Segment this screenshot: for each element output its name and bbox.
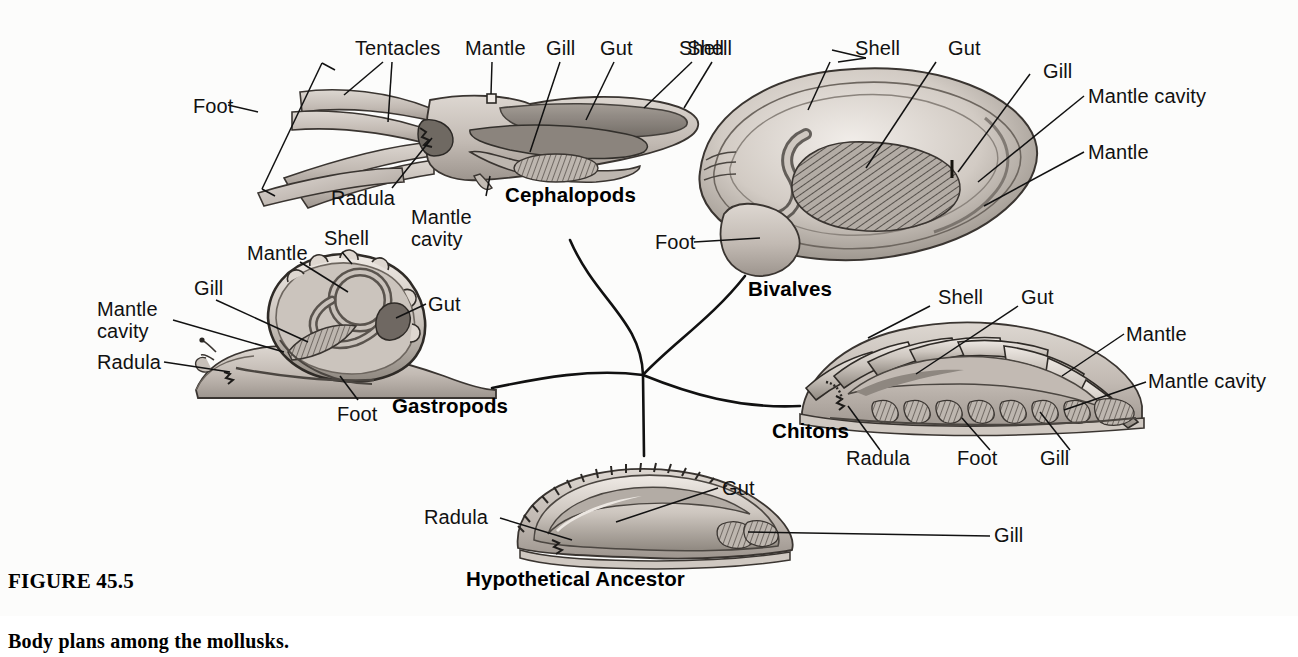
label-gastropod-radula: Radula — [97, 352, 161, 373]
group-label-chitons: Chitons — [772, 419, 849, 443]
label-cephalopod-gut: Gut — [600, 38, 633, 59]
label-cephalopod-foot: Foot — [193, 96, 233, 117]
label-chiton-mantle: Mantle — [1126, 324, 1187, 345]
label-chiton-shell: Shell — [938, 287, 983, 308]
group-label-gastropods: Gastropods — [392, 394, 508, 418]
label-cephalopod-tentacles: Tentacles — [355, 38, 440, 59]
label-gastropod-gill: Gill — [194, 278, 223, 299]
label-bivalve-shell: Shell — [855, 38, 900, 59]
label-gastropod-mantle: Mantle — [247, 243, 308, 264]
label-bivalve-shell-left: Shell — [687, 38, 732, 59]
label-gastropod-mantle-cavity-line2: cavity — [97, 320, 149, 342]
group-label-bivalves: Bivalves — [748, 277, 832, 301]
label-chiton-radula: Radula — [846, 448, 910, 469]
label-chiton-gill: Gill — [1040, 448, 1069, 469]
label-gastropod-mantle-cavity-line1: Mantle — [97, 298, 158, 320]
label-gastropod-foot: Foot — [337, 404, 377, 425]
label-bivalve-gut: Gut — [948, 38, 981, 59]
bivalve-illustration — [699, 68, 1037, 276]
label-cephalopod-mantle-cavity-line2: cavity — [411, 228, 463, 250]
label-bivalve-mantle: Mantle — [1088, 142, 1149, 163]
label-chiton-foot: Foot — [957, 448, 997, 469]
label-cephalopod-mantle: Mantle — [465, 38, 526, 59]
gastropod-illustration — [196, 250, 496, 398]
label-chiton-gut: Gut — [1021, 287, 1054, 308]
label-cephalopod-radula: Radula — [331, 188, 395, 209]
bivalve-shell-left-leader — [684, 62, 712, 108]
group-label-cephalopods: Cephalopods — [505, 183, 636, 207]
label-gastropod-shell: Shell — [324, 228, 369, 249]
figure-number: FIGURE 45.5 — [8, 569, 289, 594]
figure-caption-text: Body plans among the mollusks. — [8, 630, 289, 653]
label-bivalve-mantle-cavity: Mantle cavity — [1088, 86, 1206, 107]
label-cephalopod-mantle-cavity-line1: Mantle — [411, 206, 472, 228]
figure-caption: FIGURE 45.5 Body plans among the mollusk… — [8, 533, 289, 657]
label-bivalve-foot: Foot — [655, 232, 695, 253]
group-label-hypothetical-ancestor: Hypothetical Ancestor — [466, 567, 685, 591]
chiton-illustration — [800, 322, 1144, 435]
label-ancestor-gill: Gill — [994, 525, 1023, 546]
label-chiton-mantle-cavity: Mantle cavity — [1148, 371, 1266, 392]
label-bivalve-gill: Gill — [1043, 61, 1072, 82]
label-cephalopod-gill: Gill — [546, 38, 575, 59]
label-ancestor-gut: Gut — [722, 478, 755, 499]
label-gastropod-gut: Gut — [428, 294, 461, 315]
label-ancestor-radula: Radula — [424, 507, 488, 528]
